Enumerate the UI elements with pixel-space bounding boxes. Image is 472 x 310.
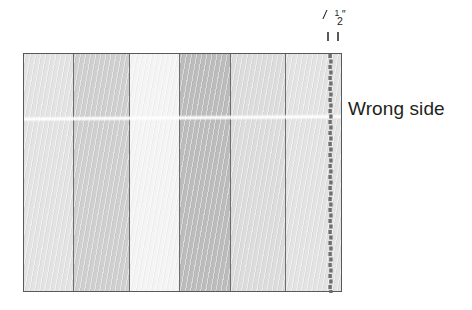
- measurement-tick-marks: [318, 32, 362, 44]
- fabric-strip: [231, 54, 286, 291]
- fabric-strip-row: [24, 54, 341, 291]
- sewing-diagram-figure: 12″ Wrong side: [0, 0, 472, 310]
- wrong-side-annotation: Wrong side: [348, 99, 445, 120]
- seam-allowance-measurement: 12″: [318, 8, 362, 52]
- fraction-solidus-icon: [319, 10, 332, 19]
- fabric-strip: [130, 54, 180, 291]
- tick-mark-left: [327, 32, 329, 41]
- fabric-strip: [286, 54, 341, 291]
- fabric-panel: [23, 53, 342, 292]
- fabric-strip: [74, 54, 130, 291]
- seam-allowance-label: 12″: [318, 8, 362, 27]
- tick-mark-right: [337, 32, 339, 41]
- fraction-one-half: 12: [335, 8, 341, 27]
- fraction-denominator: 2: [337, 16, 343, 27]
- fabric-strip: [180, 54, 231, 291]
- fabric-strip: [24, 54, 74, 291]
